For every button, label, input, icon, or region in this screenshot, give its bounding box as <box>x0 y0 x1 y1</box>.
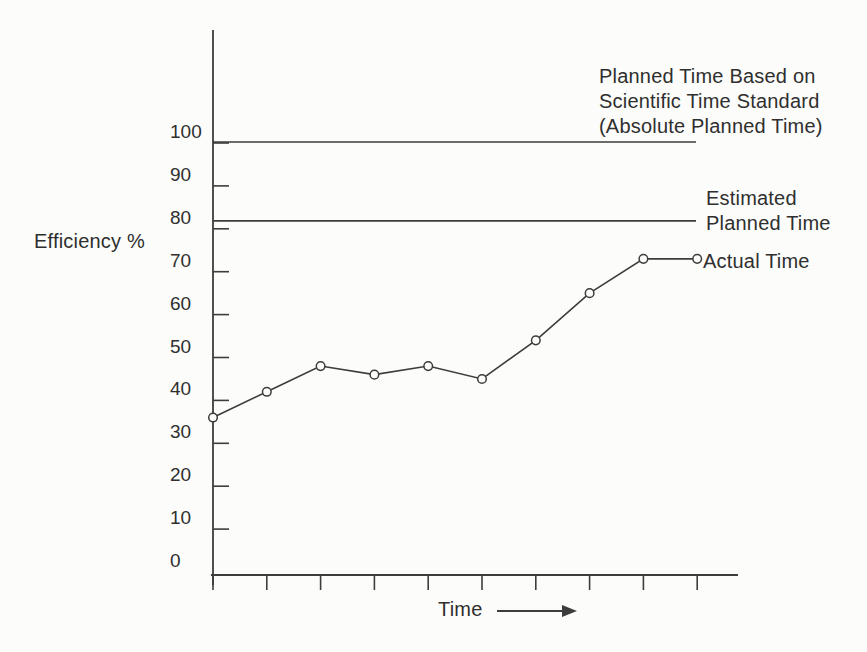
data-point-marker <box>316 362 325 371</box>
y-tick-label: 60 <box>170 293 210 312</box>
series-label: Actual Time <box>703 249 810 274</box>
y-tick-label: 30 <box>170 422 210 441</box>
x-axis-label: Time <box>438 598 483 621</box>
ref-line-80-annotation: Estimated Planned Time <box>706 186 831 236</box>
y-tick-label: 50 <box>170 336 210 355</box>
y-tick-label: 90 <box>170 164 210 183</box>
series-actual-time <box>209 255 702 422</box>
reference-lines <box>213 142 696 221</box>
y-axis-label: Efficiency % <box>34 230 145 253</box>
annotation-line: Planned Time <box>706 211 831 236</box>
y-tick-label: 20 <box>170 465 210 484</box>
data-point-marker <box>693 255 702 264</box>
data-point-marker <box>532 336 541 345</box>
annotation-line: (Absolute Planned Time) <box>599 114 823 139</box>
series-line <box>213 259 697 418</box>
annotation-line: Planned Time Based on <box>599 64 823 89</box>
y-tick-label: 0 <box>170 551 210 570</box>
ref-line-100-annotation: Planned Time Based on Scientific Time St… <box>599 64 823 139</box>
chart-figure: 0102030405060708090100 Efficiency % Time… <box>0 0 867 652</box>
data-point-marker <box>209 413 218 422</box>
y-tick-label: 10 <box>170 508 210 527</box>
y-tick-label: 40 <box>170 379 210 398</box>
data-point-marker <box>585 289 594 298</box>
y-tick-label: 70 <box>170 250 210 269</box>
data-point-marker <box>370 370 379 379</box>
y-tick-label: 100 <box>170 122 210 141</box>
data-point-marker <box>478 375 487 384</box>
data-point-marker <box>424 362 433 371</box>
right-arrow-icon <box>497 605 577 617</box>
data-point-marker <box>263 388 272 397</box>
data-point-marker <box>639 255 648 264</box>
y-axis-ticks <box>213 143 229 529</box>
x-axis-ticks <box>213 575 697 590</box>
annotation-line: Scientific Time Standard <box>599 89 823 114</box>
annotation-line: Estimated <box>706 186 831 211</box>
y-tick-label: 80 <box>170 207 210 226</box>
